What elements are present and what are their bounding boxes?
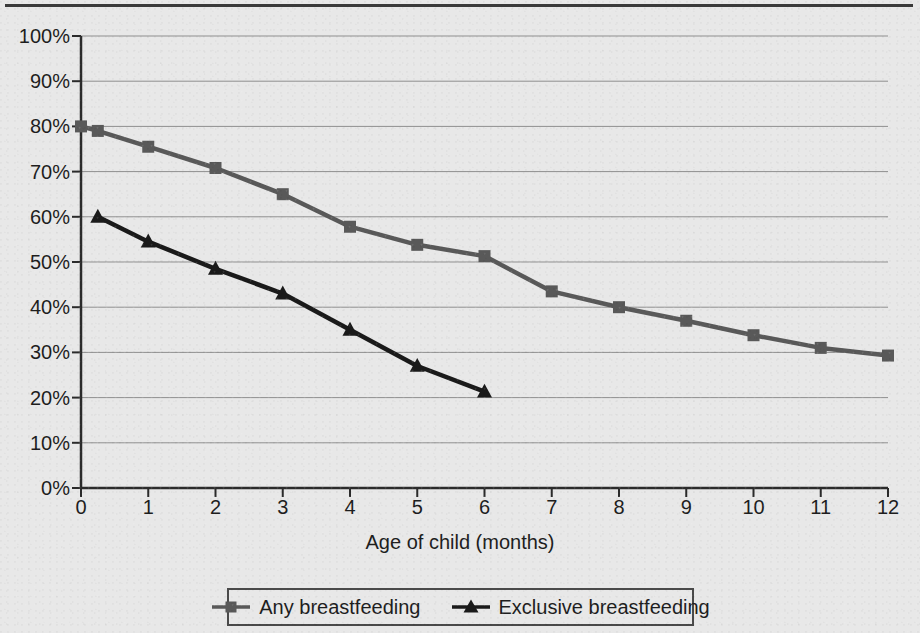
y-axis-ticks: [72, 36, 81, 488]
data-point-marker: [75, 120, 87, 132]
y-axis-tick-label: 40%: [8, 297, 70, 317]
y-axis-tick-label: 70%: [8, 162, 70, 182]
data-point-marker: [613, 301, 625, 313]
data-point-marker: [479, 250, 491, 262]
data-point-marker: [882, 350, 894, 362]
y-axis-tick-label: 100%: [8, 26, 70, 46]
square-marker-icon: [211, 598, 251, 616]
y-axis-tick-label: 20%: [8, 388, 70, 408]
x-axis-tick-label: 9: [666, 497, 706, 517]
data-point-marker: [815, 342, 827, 354]
x-axis-tick-label: 7: [532, 497, 572, 517]
data-point-marker: [546, 285, 558, 297]
series-line: [98, 217, 485, 392]
legend-entry-any-breastfeeding[interactable]: Any breastfeeding: [211, 597, 420, 617]
data-point-marker: [411, 239, 423, 251]
x-axis-tick-label: 3: [263, 497, 303, 517]
data-point-marker: [748, 329, 760, 341]
x-axis-tick-label: 2: [196, 497, 236, 517]
x-axis-tick-label: 1: [128, 497, 168, 517]
x-axis-tick-label: 5: [397, 497, 437, 517]
gridlines: [81, 36, 888, 443]
y-axis-tick-label: 0%: [8, 478, 70, 498]
x-axis-tick-label: 6: [465, 497, 505, 517]
y-axis-tick-label: 30%: [8, 342, 70, 362]
data-series-layer: [75, 120, 894, 397]
y-axis-tick-label: 10%: [8, 433, 70, 453]
y-axis-tick-label: 50%: [8, 252, 70, 272]
x-axis-tick-label: 4: [330, 497, 370, 517]
data-point-marker: [142, 141, 154, 153]
x-axis-tick-label: 8: [599, 497, 639, 517]
legend-label-exclusive-breastfeeding: Exclusive breastfeeding: [499, 597, 710, 617]
x-axis-tick-label: 0: [61, 497, 101, 517]
triangle-marker-icon: [451, 598, 491, 616]
chart-legend: Any breastfeeding Exclusive breastfeedin…: [227, 588, 694, 626]
data-point-marker: [680, 315, 692, 327]
series-line: [81, 126, 888, 355]
data-point-marker: [92, 125, 104, 137]
y-axis-tick-label: 60%: [8, 207, 70, 227]
data-point-marker: [210, 162, 222, 174]
legend-entry-exclusive-breastfeeding[interactable]: Exclusive breastfeeding: [451, 597, 710, 617]
x-axis-tick-label: 11: [801, 497, 841, 517]
y-axis-tick-label: 90%: [8, 71, 70, 91]
x-axis-tick-label: 10: [734, 497, 774, 517]
legend-label-any-breastfeeding: Any breastfeeding: [259, 597, 420, 617]
x-axis-title: Age of child (months): [0, 531, 920, 554]
x-axis-tick-label: 12: [868, 497, 908, 517]
y-axis-tick-label: 80%: [8, 116, 70, 136]
data-point-marker: [344, 221, 356, 233]
breastfeeding-line-chart: 100%90%80%70%60%50%40%30%20%10%0% 012345…: [0, 0, 920, 633]
data-point-marker: [277, 188, 289, 200]
data-point-marker: [90, 209, 105, 223]
